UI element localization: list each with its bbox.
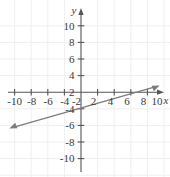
x-tick-label: 4: [108, 95, 114, 107]
y-tick-label: 10: [64, 20, 76, 32]
y-tick-label: -6: [65, 119, 75, 131]
y-axis-label: y: [71, 4, 77, 16]
plotted-line: [14, 87, 155, 127]
y-tick-label: 2: [69, 86, 75, 98]
y-tick-label: 4: [69, 69, 75, 81]
x-tick-label: 2: [91, 95, 97, 107]
graph-canvas: -10 -8 -6 -4 -2 2 4 6 8 10 10 8 6 4 2 -4…: [0, 0, 170, 177]
grid-lines: [0, 0, 170, 177]
x-axis-label: x: [163, 94, 169, 106]
y-axis-arrowhead: [78, 8, 83, 15]
y-axis: [78, 8, 83, 172]
y-tick-label: -8: [65, 136, 75, 148]
x-tick-label: 8: [141, 95, 147, 107]
y-tick-label: 6: [69, 53, 75, 65]
y-tick-label: -10: [60, 152, 75, 164]
x-tick-label: -8: [27, 95, 37, 107]
x-tick-label: 6: [124, 95, 130, 107]
coordinate-plane-figure: -10 -8 -6 -4 -2 2 4 6 8 10 10 8 6 4 2 -4…: [0, 0, 170, 177]
x-tick-label: -6: [44, 95, 54, 107]
x-tick-label: -10: [7, 95, 22, 107]
y-tick-label: -4: [65, 103, 75, 115]
x-axis-tick-labels: -10 -8 -6 -4 -2 2 4 6 8 10: [7, 95, 163, 107]
y-tick-label: 8: [69, 36, 75, 48]
x-tick-label: 10: [152, 95, 164, 107]
